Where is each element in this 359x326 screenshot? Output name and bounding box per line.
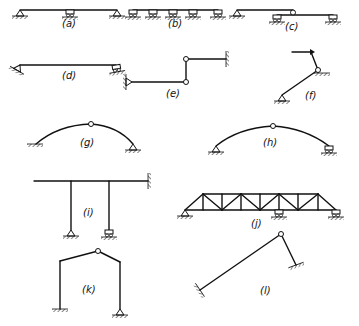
structure-i: (i) <box>34 173 151 240</box>
structure-b: (b) <box>125 10 226 29</box>
structure-k: (k) <box>52 249 128 319</box>
label-c: (c) <box>285 21 298 32</box>
structure-l: (l) <box>193 232 305 299</box>
structure-j: (j) <box>177 194 344 229</box>
structure-f: (f) <box>274 49 330 104</box>
structure-d: (d) <box>9 61 126 81</box>
structures-figure: (a) (b) (c) (d) (e) <box>0 0 359 326</box>
label-k: (k) <box>82 284 96 295</box>
structure-a: (a) <box>12 10 125 29</box>
structure-h: (h) <box>208 124 337 157</box>
label-l: (l) <box>260 285 271 296</box>
label-a: (a) <box>62 18 76 29</box>
label-d: (d) <box>62 70 76 81</box>
label-j: (j) <box>251 218 262 229</box>
structure-g: (g) <box>27 122 141 154</box>
structure-c: (c) <box>229 10 341 32</box>
label-g: (g) <box>80 137 94 148</box>
label-f: (f) <box>305 90 316 101</box>
label-b: (b) <box>168 18 182 29</box>
label-i: (i) <box>83 207 94 218</box>
structure-e: (e) <box>123 51 229 99</box>
label-e: (e) <box>166 88 180 99</box>
label-h: (h) <box>263 137 277 148</box>
